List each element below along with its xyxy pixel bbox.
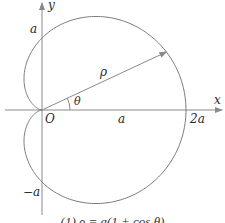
- angle-arc: [67, 98, 70, 110]
- tick-label-x-end: 2a: [189, 112, 205, 126]
- angle-label: θ: [74, 95, 81, 108]
- cardioid-diagram: y x O a −a a 2a ρ θ: [0, 0, 225, 223]
- tick-label-y-positive: a: [30, 22, 37, 36]
- origin-label: O: [45, 112, 55, 126]
- y-axis-label: y: [47, 0, 55, 12]
- equation-caption: (1) ρ = a(1 + cos θ): [0, 214, 225, 223]
- radius-ray: [42, 52, 166, 110]
- x-axis-label: x: [214, 93, 221, 107]
- tick-label-y-negative: −a: [23, 185, 40, 199]
- tick-label-x-mid: a: [118, 112, 125, 126]
- radius-label: ρ: [99, 65, 107, 79]
